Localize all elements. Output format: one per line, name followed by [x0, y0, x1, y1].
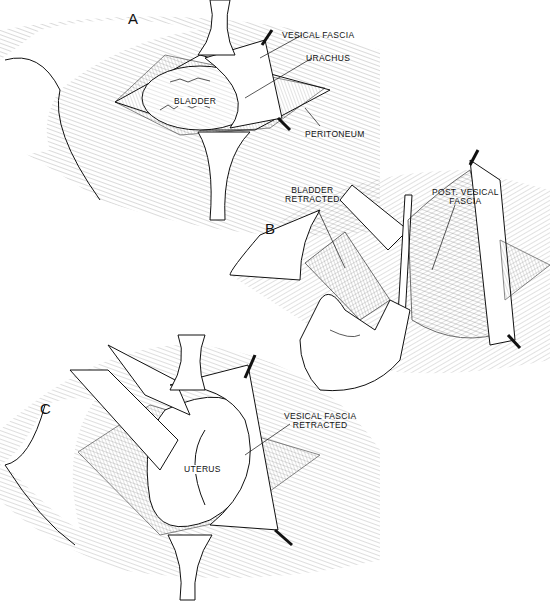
label-vesical-fascia: VESICAL FASCIA [282, 31, 354, 40]
label-peritoneum: PERITONEUM [305, 130, 365, 139]
line-art [0, 0, 558, 605]
panel-label-a: A [128, 10, 138, 27]
surgical-illustration: A B C VESICAL FASCIA URACHUS BLADDER PER… [0, 0, 558, 605]
label-post-vesical-fascia: POST. VESICAL FASCIA [432, 188, 499, 206]
label-bladder-retracted: BLADDER RETRACTED [285, 186, 340, 204]
label-vesical-fascia-retracted: VESICAL FASCIA RETRACTED [284, 412, 356, 430]
label-bladder: BLADDER [174, 97, 216, 106]
label-urachus: URACHUS [306, 54, 350, 63]
panel-label-c: C [40, 400, 51, 417]
label-uterus: UTERUS [184, 465, 221, 474]
panel-label-b: B [265, 220, 275, 237]
